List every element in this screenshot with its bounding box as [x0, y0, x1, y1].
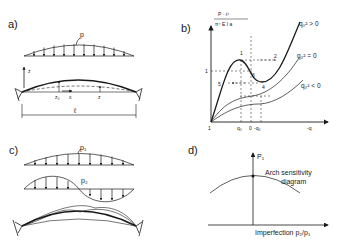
load-label-p1: p₁ [80, 144, 87, 152]
x-tick-neg-q0: -q₀ [254, 125, 261, 131]
peak-point [251, 174, 254, 177]
p1-axis-label: P₁ [257, 153, 265, 160]
curve-label-line2: diagram [281, 178, 306, 186]
right-support-icon [136, 88, 142, 101]
y-axis-denominator: π⁴ E I a [215, 21, 232, 27]
y-axis-numerator: P · ℓ⁴ [218, 11, 229, 17]
panel-c: c) p₁ p₂ [9, 144, 143, 236]
x-tick-origin: 1 [208, 125, 211, 131]
legend-q0sq-zero: q₀² = 0 [297, 52, 317, 60]
guide-lines [211, 36, 271, 122]
z-label: z [98, 94, 101, 100]
panel-label-b: b) [181, 22, 191, 34]
z-axis-label: z [28, 68, 31, 74]
initial-shape-dashed [22, 86, 136, 92]
right-support-icon-c [136, 220, 143, 236]
distributed-load-p1 [24, 149, 134, 165]
panel-a: p a) z z₀ x z ℓ [8, 18, 142, 118]
panel-b: b) P · ℓ⁴ π⁴ E I a 1 2 4 5 6 1 1 q₀ [181, 11, 328, 131]
point-6: 6 [252, 72, 255, 78]
left-support-icon [15, 88, 22, 101]
deformed-arch-shapes [22, 206, 136, 226]
point-4: 4 [262, 84, 265, 90]
x-tick-zero: 0 [249, 125, 252, 131]
z0-label: z₀ [55, 94, 60, 100]
panel-label-c: c) [9, 144, 18, 156]
x-tick-q0: q₀ [237, 125, 242, 131]
panel-d: d) P₁ Arch sensitivity diagram Imperfect… [188, 144, 328, 237]
x-axis-label-neg-q: -q [307, 125, 312, 131]
y-tick-1: 1 [205, 68, 208, 74]
panel-label-a: a) [8, 18, 18, 30]
panel-label-d: d) [188, 144, 198, 156]
point-2: 2 [274, 53, 277, 59]
point-5: 5 [218, 81, 221, 87]
x-axis-label: x [69, 94, 72, 100]
span-label: ℓ [73, 107, 77, 114]
point-1: 1 [240, 50, 243, 56]
imperfection-label: Imperfection p₂/p₁ [255, 229, 311, 237]
span-dimension [22, 104, 136, 118]
legend-q0sq-negative: q₀² < 0 [301, 82, 321, 90]
antisymmetric-load-p2 [24, 176, 134, 202]
curve-q0sq-zero [211, 58, 299, 122]
legend-q0sq-positive: q₀² > 0 [299, 20, 319, 28]
curve-label-line1: Arch sensitivity [265, 169, 312, 177]
left-support-icon-c [13, 220, 22, 236]
load-label-p: p [80, 31, 84, 39]
figure-canvas: p a) z z₀ x z ℓ b) P [0, 0, 341, 248]
curve-q0sq-negative [211, 80, 303, 122]
distributed-load-p [24, 38, 134, 56]
load-label-p2: p₂ [81, 177, 88, 185]
